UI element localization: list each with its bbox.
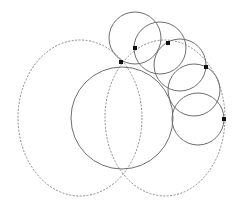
tangent-point-2 bbox=[133, 46, 137, 50]
circle-chain-diagram bbox=[0, 0, 236, 205]
left-dashed-ellipse bbox=[18, 40, 142, 196]
solid-circles bbox=[71, 12, 224, 169]
small-circle-4 bbox=[168, 64, 220, 116]
small-circle-5 bbox=[172, 93, 224, 145]
main-circle bbox=[71, 67, 173, 169]
tangent-point-1 bbox=[119, 60, 123, 64]
tangent-point-3 bbox=[166, 41, 170, 45]
tangent-point-4 bbox=[204, 65, 208, 69]
tangent-point-5 bbox=[222, 117, 226, 121]
